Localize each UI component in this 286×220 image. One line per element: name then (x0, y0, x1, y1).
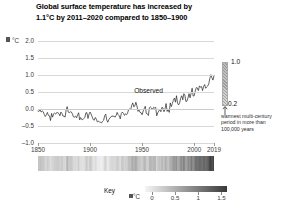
gridline (38, 92, 214, 93)
y-axis-tick-label: 1.5 (6, 55, 34, 61)
page-title: Global surface temperature has increased… (36, 2, 226, 23)
range-top-value: 1.0 (231, 59, 240, 66)
gridline (38, 75, 214, 76)
gridline (38, 126, 214, 127)
key-unit-swatch (129, 194, 133, 199)
x-axis-tick-label: 2000 (187, 147, 201, 153)
y-axis-tick-label: 0.5 (6, 89, 34, 95)
title-line-1: Global surface temperature has increased… (36, 2, 226, 13)
x-axis-tick-label: 1900 (83, 147, 97, 153)
y-axis-tick-label: –0.5 (6, 123, 34, 129)
range-note-line-3: 100,000 years (221, 126, 283, 132)
gridline (38, 109, 214, 110)
title-line-2: 1.1°C by 2011–2020 compared to 1850–1900 (36, 13, 226, 24)
y-axis-tick-label: 0.0 (6, 106, 34, 112)
key-tick-label: 0.5 (171, 195, 180, 201)
observed-series-label: Observed (134, 88, 163, 95)
gridline (38, 58, 214, 59)
key-unit-label: °C (133, 194, 140, 200)
y-axis-tick-label: 2.0 (6, 38, 34, 44)
range-bottom-value: 0.2 (228, 101, 237, 108)
range-annotation: warmest multi-century period in more tha… (221, 113, 283, 132)
key-label: Key (104, 188, 115, 194)
y-axis-tick-label: 1.0 (6, 72, 34, 78)
x-axis-tick-label: 1850 (31, 147, 45, 153)
gridline (38, 41, 214, 42)
x-axis-tick-label: 2019 (207, 147, 221, 153)
warming-stripes (38, 156, 214, 171)
key-tick-label: 0 (150, 195, 153, 201)
key-colorbar (145, 186, 227, 192)
y-axis-tick-label: –1.0 (6, 140, 34, 146)
key-tick-label: 1 (197, 195, 200, 201)
x-axis-tick-label: 1950 (135, 147, 149, 153)
plot-area (38, 41, 214, 143)
climate-figure: Global surface temperature has increased… (0, 0, 286, 220)
gridline (38, 143, 214, 144)
key-tick-label: 1.5 (217, 195, 226, 201)
